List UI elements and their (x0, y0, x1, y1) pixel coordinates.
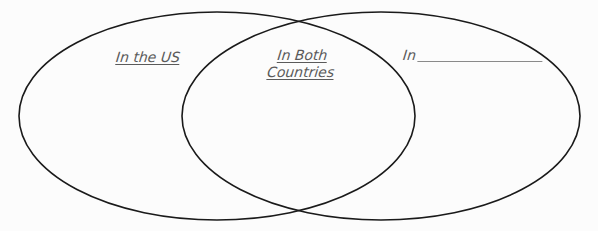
intersection-label: In Both Countries (266, 47, 337, 81)
right-set-label-prefix: In (402, 47, 417, 64)
venn-diagram (0, 0, 598, 231)
venn-diagram-canvas: In the US In Both Countries In (0, 0, 598, 231)
left-set-label: In the US (115, 49, 181, 66)
right-set-label: In (402, 47, 544, 64)
intersection-label-line2: Countries (266, 64, 335, 81)
right-set-fill-in-blank[interactable] (417, 61, 542, 62)
left-set-ellipse (19, 12, 415, 220)
left-set-label-text: In the US (115, 49, 181, 65)
right-set-ellipse (182, 12, 580, 220)
intersection-label-line1: In Both (268, 47, 337, 64)
